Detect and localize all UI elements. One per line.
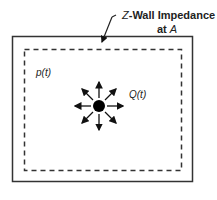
pressure-label: p(t) (35, 67, 51, 78)
source-label: Q(t) (129, 89, 146, 100)
point-source-dot (93, 100, 105, 112)
wall-impedance-location: at A (157, 23, 177, 35)
wall-impedance-label: Z-Wall Impedance (121, 9, 215, 21)
room-diagram: Z-Wall Impedance at A p(t) Q(t) (0, 0, 217, 200)
wall-pointer-tick (112, 15, 116, 17)
wall-pointer-line (102, 17, 112, 42)
